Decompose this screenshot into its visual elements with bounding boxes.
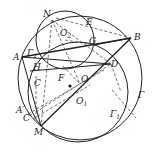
label-N: N: [42, 9, 52, 19]
label-G: G: [89, 36, 96, 46]
label-A: A: [12, 52, 20, 62]
label-O: O: [81, 74, 89, 84]
point-O1-dot: [68, 84, 71, 87]
label-E: E: [85, 17, 93, 27]
label-gamma2: Γ2: [26, 48, 37, 59]
label-gamma: Γ: [137, 90, 145, 100]
label-gamma1: Γ1: [109, 109, 120, 120]
label-O1: O1: [76, 96, 87, 107]
line-ND: [52, 20, 111, 64]
label-O2: O2: [60, 28, 71, 39]
label-B: B: [133, 32, 141, 42]
label-F: F: [57, 73, 65, 83]
label-M: M: [33, 127, 44, 137]
label-C: C: [34, 78, 41, 88]
label-D: D: [110, 59, 118, 69]
label-H: H: [32, 62, 41, 72]
geometry-diagram: N E O2 G B A Γ2 H D C F O O1 A′ C′ M Γ Γ…: [0, 0, 155, 152]
label-C-prime: C′: [23, 113, 32, 123]
line-AprimeD: [28, 70, 104, 114]
line-NM: [41, 20, 52, 126]
